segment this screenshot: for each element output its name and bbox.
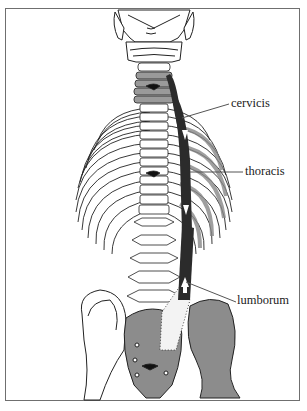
vertebral-column [127, 104, 181, 302]
label-lumborum: lumborum [237, 294, 289, 307]
spine-anatomy-illustration [0, 0, 307, 411]
label-cervicis: cervicis [231, 97, 270, 110]
label-thoracis: thoracis [245, 165, 285, 178]
cervical-vertebrae [134, 63, 174, 103]
ilium-left [81, 290, 126, 400]
skull-base [114, 10, 194, 62]
ribcage-right [158, 108, 232, 254]
ribcage-left [76, 108, 150, 254]
ilium-right [188, 299, 240, 398]
leader-line-cervicis [182, 104, 229, 118]
erector-spinae-muscles [166, 74, 194, 300]
